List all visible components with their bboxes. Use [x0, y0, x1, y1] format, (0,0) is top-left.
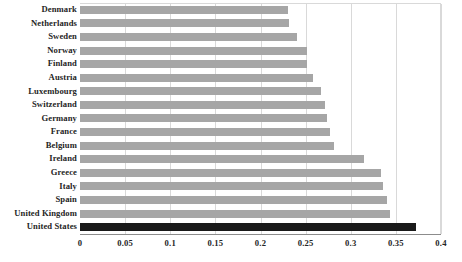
bar	[80, 19, 289, 27]
bar	[80, 155, 364, 163]
category-label: Norway	[0, 44, 77, 58]
category-label: United Kingdom	[0, 207, 77, 221]
bar	[80, 6, 288, 14]
bar-row: Austria	[0, 71, 462, 85]
category-label: France	[0, 125, 77, 139]
category-label: Greece	[0, 166, 77, 180]
bar-row: United States	[0, 220, 462, 234]
bar-row: Germany	[0, 112, 462, 126]
bar-row: Switzerland	[0, 98, 462, 112]
bar-row: Denmark	[0, 3, 462, 17]
bar	[80, 47, 307, 55]
bar-row: Greece	[0, 166, 462, 180]
category-label: Finland	[0, 57, 77, 71]
bar	[80, 169, 381, 177]
category-label: Belgium	[0, 139, 77, 153]
bar-row: France	[0, 125, 462, 139]
bar	[80, 33, 297, 41]
category-label: Luxembourg	[0, 85, 77, 99]
bar	[80, 114, 327, 122]
bar-row: Italy	[0, 180, 462, 194]
category-label: Switzerland	[0, 98, 77, 112]
bar-row: Sweden	[0, 30, 462, 44]
category-label: Austria	[0, 71, 77, 85]
bar	[80, 60, 307, 68]
bar-row: Spain	[0, 193, 462, 207]
bar	[80, 182, 383, 190]
bar	[80, 196, 387, 204]
bar	[80, 142, 334, 150]
bar-row: Luxembourg	[0, 85, 462, 99]
category-label: Germany	[0, 112, 77, 126]
category-label: Sweden	[0, 30, 77, 44]
category-label: Denmark	[0, 3, 77, 17]
bar-row: Belgium	[0, 139, 462, 153]
x-axis-line	[80, 234, 441, 235]
bar	[80, 101, 325, 109]
bar-chart: DenmarkNetherlandsSwedenNorwayFinlandAus…	[0, 0, 462, 262]
x-tick-label: 0.4	[411, 236, 462, 250]
category-label: Ireland	[0, 152, 77, 166]
bar-row: United Kingdom	[0, 207, 462, 221]
bar-row: Netherlands	[0, 17, 462, 31]
bar	[80, 87, 321, 95]
category-label: Netherlands	[0, 17, 77, 31]
category-label: Spain	[0, 193, 77, 207]
bar-rows: DenmarkNetherlandsSwedenNorwayFinlandAus…	[0, 3, 462, 234]
bar	[80, 210, 390, 218]
bar	[80, 128, 330, 136]
bar-row: Ireland	[0, 152, 462, 166]
bar-row: Finland	[0, 57, 462, 71]
category-label: United States	[0, 220, 77, 234]
bar	[80, 223, 416, 231]
bar-row: Norway	[0, 44, 462, 58]
x-axis-tick-labels: 00.050.10.150.20.250.30.350.4	[0, 236, 462, 252]
category-label: Italy	[0, 180, 77, 194]
bar	[80, 74, 313, 82]
